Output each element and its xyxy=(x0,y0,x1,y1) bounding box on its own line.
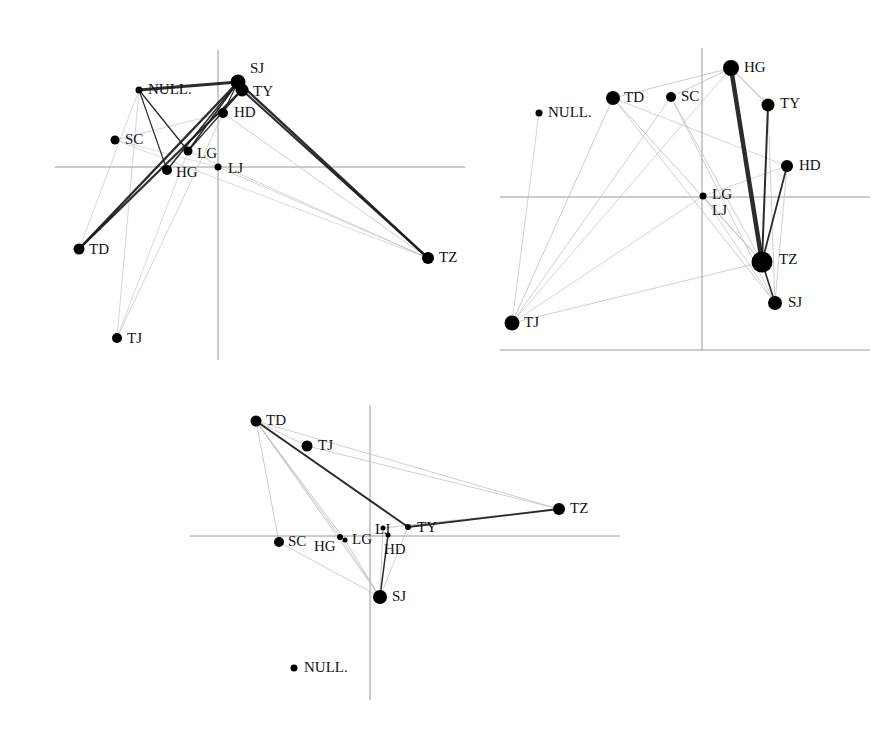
node-point-tj[interactable] xyxy=(302,441,313,452)
node-label-hd: HD xyxy=(234,104,256,120)
node-point-null[interactable] xyxy=(136,87,143,94)
node-label-lj: LJ xyxy=(712,202,727,218)
network-edge xyxy=(762,105,768,262)
figure-canvas: SJTYHDNULL.SCLGHGLJTDTJTZHGTDSCTYNULL.HD… xyxy=(0,0,893,729)
node-label-sj: SJ xyxy=(250,60,264,76)
node-point-td[interactable] xyxy=(606,91,620,105)
node-label-tj: TJ xyxy=(318,437,333,453)
node-point-hg[interactable] xyxy=(337,534,343,540)
panel-top-right: HGTDSCTYNULL.HDLGLJTZSJTJ xyxy=(500,48,870,350)
node-label-hg: HG xyxy=(176,164,198,180)
node-point-sc[interactable] xyxy=(666,92,676,102)
node-point-hd[interactable] xyxy=(218,108,228,118)
node-label-ty: TY xyxy=(780,95,800,111)
node-label-sc: SC xyxy=(288,533,306,549)
network-edge xyxy=(79,82,238,249)
node-label-td: TD xyxy=(89,241,109,257)
node-point-tz[interactable] xyxy=(422,252,434,264)
network-edge xyxy=(117,82,238,338)
node-point-ty[interactable] xyxy=(405,524,411,530)
network-edge xyxy=(117,90,139,338)
node-label-sj: SJ xyxy=(788,294,802,310)
network-edge xyxy=(671,68,731,97)
node-label-lg: LG xyxy=(197,145,217,161)
network-edge xyxy=(307,446,559,509)
network-edge xyxy=(223,113,428,258)
node-label-tz: TZ xyxy=(779,251,797,267)
node-point-sc[interactable] xyxy=(111,136,120,145)
node-label-null: NULL. xyxy=(148,81,192,97)
node-point-hd[interactable] xyxy=(781,160,793,172)
node-point-tz[interactable] xyxy=(553,503,565,515)
node-label-tz: TZ xyxy=(570,500,588,516)
node-point-td[interactable] xyxy=(74,244,85,255)
node-label-lg: LG xyxy=(352,531,372,547)
network-edge xyxy=(79,90,139,249)
network-edge xyxy=(188,82,238,151)
node-label-ty: TY xyxy=(253,83,273,99)
node-label-sc: SC xyxy=(681,88,699,104)
node-label-null: NULL. xyxy=(304,659,348,675)
network-edge xyxy=(512,97,671,323)
node-label-hd: HD xyxy=(799,157,821,173)
network-edge xyxy=(768,105,775,303)
node-point-ty[interactable] xyxy=(236,84,249,97)
panel-top-left: SJTYHDNULL.SCLGHGLJTDTJTZ xyxy=(55,50,465,360)
node-point-sj[interactable] xyxy=(373,590,387,604)
network-edge xyxy=(238,82,428,258)
node-label-td: TD xyxy=(266,412,286,428)
panel-container: SJTYHDNULL.SCLGHGLJTDTJTZHGTDSCTYNULL.HD… xyxy=(0,0,893,729)
node-point-ty[interactable] xyxy=(762,99,775,112)
node-label-hg: HG xyxy=(744,59,766,75)
node-point-hg[interactable] xyxy=(723,60,739,76)
network-edge xyxy=(115,140,428,258)
node-label-null: NULL. xyxy=(548,104,592,120)
node-point-td[interactable] xyxy=(251,416,262,427)
node-label-tj: TJ xyxy=(127,330,142,346)
network-edge xyxy=(512,68,731,323)
node-point-lg[interactable] xyxy=(343,538,348,543)
node-label-lg: LG xyxy=(712,186,732,202)
network-edge xyxy=(218,167,428,258)
network-edge xyxy=(256,421,279,542)
network-edge xyxy=(613,98,787,166)
node-point-tj[interactable] xyxy=(505,316,520,331)
node-label-hd: HD xyxy=(384,541,406,557)
network-edge xyxy=(139,90,167,170)
node-point-tz[interactable] xyxy=(752,252,773,273)
node-label-sc: SC xyxy=(125,131,143,147)
node-label-hg: HG xyxy=(314,538,336,554)
node-point-null[interactable] xyxy=(536,110,543,117)
node-label-sj: SJ xyxy=(392,588,406,604)
network-edge xyxy=(512,262,762,323)
node-label-tj: TJ xyxy=(524,314,539,330)
node-point-null[interactable] xyxy=(291,665,298,672)
node-label-td: TD xyxy=(624,89,644,105)
node-point-lj[interactable] xyxy=(215,164,222,171)
node-point-tj[interactable] xyxy=(112,333,122,343)
node-point-lj[interactable] xyxy=(701,194,706,199)
network-edge xyxy=(512,113,539,323)
node-label-tz: TZ xyxy=(439,249,457,265)
node-point-hg[interactable] xyxy=(162,165,172,175)
panel-bottom: TDTJTZSCHGLGLJTYHDSJNULL. xyxy=(190,405,620,700)
node-point-hd[interactable] xyxy=(386,533,391,538)
scatter-network-plot: SJTYHDNULL.SCLGHGLJTDTJTZHGTDSCTYNULL.HD… xyxy=(0,0,893,729)
node-point-lg[interactable] xyxy=(184,147,193,156)
node-point-sj[interactable] xyxy=(768,296,782,310)
network-edge xyxy=(256,421,559,509)
node-point-sc[interactable] xyxy=(274,537,284,547)
node-label-lj: LJ xyxy=(228,160,243,176)
node-label-ty: TY xyxy=(417,519,437,535)
